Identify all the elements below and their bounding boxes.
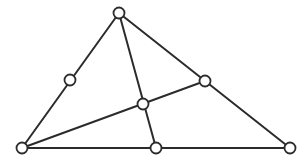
point-bottom-right-vertex [285, 143, 296, 154]
point-top-vertex [114, 8, 125, 19]
point-midpoint-left-side [65, 75, 76, 86]
point-midpoint-right-side [200, 76, 211, 87]
edges [22, 13, 290, 148]
nodes [17, 8, 296, 154]
triangle-diagram [0, 0, 308, 157]
point-midpoint-base [151, 143, 162, 154]
segment-A-M_BC [119, 13, 156, 148]
point-centroid [138, 99, 149, 110]
segment-B-M_AC [22, 81, 205, 148]
point-bottom-left-vertex [17, 143, 28, 154]
